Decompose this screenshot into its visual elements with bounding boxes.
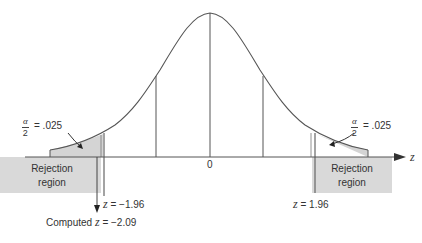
z-axis-label: z (410, 151, 415, 163)
left-rejection-region-label: Rejection region (22, 162, 82, 190)
left-tail-shade (50, 134, 103, 157)
bell-curve (50, 13, 368, 150)
left-alpha-fraction: α 2 (22, 117, 29, 138)
alpha-denominator: 2 (23, 128, 28, 138)
center-zero-label: 0 (207, 160, 213, 170)
right-alpha-value: = .025 (363, 121, 391, 131)
left-critical-value-label: z = −1.96 (103, 198, 144, 210)
left-alpha-value: = .025 (34, 121, 62, 131)
right-alpha-fraction: α 2 (351, 117, 358, 138)
alpha-denominator: 2 (352, 128, 357, 138)
right-critical-value-label: z = 1.96 (293, 198, 329, 210)
computed-z-label: Computed z = −2.09 (46, 216, 136, 228)
normal-curve-diagram (0, 0, 422, 243)
computed-z-arrowhead (94, 205, 100, 213)
right-rejection-region-label: Rejection region (320, 162, 384, 190)
z-axis-arrowhead (394, 153, 406, 161)
alpha-numerator: α (351, 117, 358, 128)
right-tail-shade (316, 134, 368, 157)
alpha-numerator: α (22, 117, 29, 128)
